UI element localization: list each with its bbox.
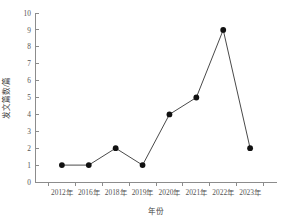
data-point-marker [59,162,65,168]
data-point-marker [167,112,173,118]
y-tick-label: 0 [27,178,31,187]
y-tick-label: 8 [27,42,31,51]
line-chart: 012345678910 2012年2016年2018年2019年2020年20… [0,0,287,221]
y-tick-label: 6 [27,76,31,85]
y-tick-label: 4 [27,110,31,119]
data-point-marker [193,95,199,101]
y-tick-label: 9 [27,26,31,35]
x-tick-label: 2022年 [212,188,235,197]
data-point-marker [220,27,226,33]
y-tick-label: 2 [27,144,31,153]
y-tick-label: 5 [27,93,31,102]
y-tick-label: 10 [24,9,32,18]
x-tick-label: 2012年 [51,188,74,197]
data-point-marker [113,145,119,151]
data-point-marker [86,162,92,168]
y-tick-label: 1 [27,161,31,170]
data-point-marker [247,145,253,151]
data-point-marker [140,162,146,168]
x-tick-label: 2023年 [239,188,262,197]
chart-canvas: 012345678910 2012年2016年2018年2019年2020年20… [0,0,287,221]
x-tick-label: 2020年 [159,188,182,197]
x-tick-label: 2021年 [185,188,208,197]
y-tick-label: 3 [27,127,31,136]
x-axis-title: 年份 [148,206,164,216]
x-tick-label: 2016年 [78,188,101,197]
y-tick-label: 7 [27,59,31,68]
x-tick-label: 2019年 [132,188,155,197]
y-axis-title: 发文篇数/篇 [1,77,11,119]
x-tick-label: 2018年 [105,188,128,197]
